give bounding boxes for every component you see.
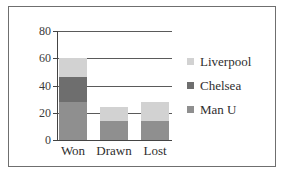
bar-lost[interactable]: [141, 102, 169, 140]
legend-swatch-icon: [187, 106, 194, 113]
bar-won[interactable]: [59, 58, 87, 140]
y-tick-label: 60: [39, 52, 51, 64]
y-tick-label: 40: [39, 80, 51, 92]
legend-swatch-icon: [187, 58, 194, 65]
gridline: [57, 31, 172, 32]
legend-swatch-icon: [187, 82, 194, 89]
legend-item-man-u[interactable]: Man U: [187, 97, 279, 121]
bar-segment-liverpool: [59, 58, 87, 77]
legend-item-chelsea[interactable]: Chelsea: [187, 73, 279, 97]
chart-screenshot: 806040200 WonDrawnLost LiverpoolChelseaM…: [0, 0, 287, 175]
x-tick-label: Lost: [125, 144, 185, 157]
legend-label: Chelsea: [200, 79, 241, 92]
legend-label: Man U: [200, 103, 236, 116]
bar-segment-man-u: [59, 102, 87, 140]
bar-segment-man-u: [100, 121, 128, 140]
y-tick-label: 20: [39, 107, 51, 119]
plot-area: 806040200 WonDrawnLost: [57, 31, 171, 140]
bar-segment-liverpool: [141, 102, 169, 121]
bar-segment-chelsea: [59, 77, 87, 102]
y-axis-line: [57, 31, 58, 141]
bar-segment-man-u: [141, 121, 169, 140]
chart-legend: LiverpoolChelseaMan U: [187, 49, 279, 121]
y-tick-label: 80: [39, 25, 51, 37]
legend-item-liverpool[interactable]: Liverpool: [187, 49, 279, 73]
bar-segment-liverpool: [100, 107, 128, 121]
x-axis-line: [57, 140, 172, 141]
chart-frame: 806040200 WonDrawnLost LiverpoolChelseaM…: [8, 6, 276, 167]
bar-drawn[interactable]: [100, 107, 128, 140]
legend-label: Liverpool: [200, 55, 251, 68]
